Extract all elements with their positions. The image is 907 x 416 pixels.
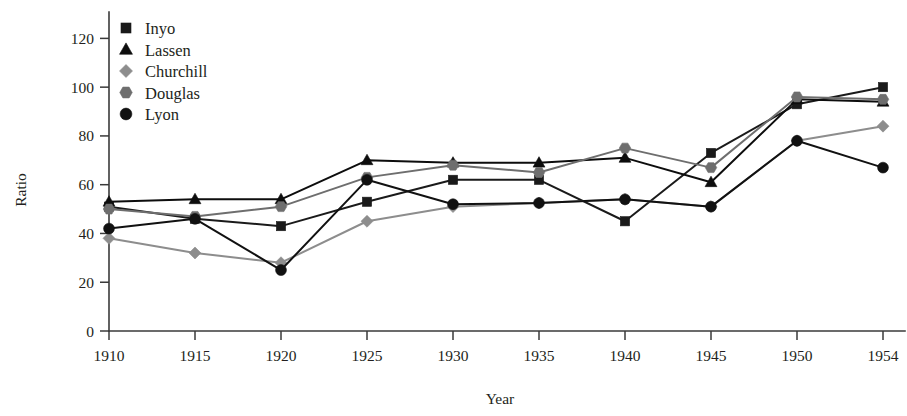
data-point [877, 94, 889, 104]
y-tick-label: 120 [71, 30, 95, 47]
data-point [103, 204, 115, 214]
legend-marker [120, 65, 133, 78]
x-tick-label: 1945 [696, 347, 727, 364]
series-lassen [103, 93, 889, 206]
x-axis-tick-labels: 1910191519201925193019351940194519501954 [94, 347, 899, 364]
y-axis-title: Ratio [12, 173, 29, 207]
legend-item-lyon: Lyon [120, 105, 179, 124]
data-point [189, 247, 201, 259]
y-tick-label: 100 [71, 79, 95, 96]
legend-label: Inyo [145, 19, 175, 38]
data-point [705, 163, 717, 173]
y-tick-label: 20 [79, 274, 95, 291]
legend-item-lassen: Lassen [120, 41, 191, 60]
data-point [276, 222, 285, 231]
legend-label: Douglas [145, 84, 200, 103]
data-point [706, 201, 717, 212]
y-axis-tick-labels: 020406080100120 [71, 30, 95, 340]
x-tick-label: 1925 [352, 347, 383, 364]
y-tick-label: 60 [79, 176, 95, 193]
x-tick-label: 1910 [94, 347, 125, 364]
legend-label: Lassen [145, 41, 191, 60]
data-point [534, 198, 545, 209]
x-tick-label: 1940 [610, 347, 641, 364]
data-point [448, 175, 457, 184]
x-tick-label: 1950 [782, 347, 813, 364]
data-point [275, 202, 287, 212]
y-tick-label: 0 [86, 323, 94, 340]
chart-legend: InyoLassenChurchillDouglasLyon [120, 19, 208, 124]
legend-item-douglas: Douglas [120, 84, 200, 103]
x-tick-label: 1930 [438, 347, 469, 364]
legend-marker [121, 23, 131, 33]
data-point [791, 92, 803, 102]
x-tick-label: 1920 [266, 347, 297, 364]
chart-container: 020406080100120 191019151920192519301935… [0, 0, 907, 416]
y-tick-label: 40 [79, 225, 95, 242]
series-douglas [103, 92, 889, 221]
y-axis-ticks [100, 38, 109, 331]
data-point [104, 223, 115, 234]
data-point [533, 168, 545, 178]
data-point [620, 217, 629, 226]
series-churchill [103, 120, 889, 269]
x-tick-label: 1935 [524, 347, 555, 364]
data-point [361, 215, 373, 227]
data-point [448, 199, 459, 210]
x-axis-ticks [109, 331, 883, 340]
data-point [878, 83, 887, 92]
data-point [190, 213, 201, 224]
y-tick-label: 80 [79, 127, 95, 144]
legend-label: Lyon [145, 105, 179, 124]
data-point [619, 143, 631, 153]
data-series-layer [103, 83, 889, 276]
ratio-line-chart: 020406080100120 191019151920192519301935… [0, 0, 907, 416]
x-tick-label: 1954 [868, 347, 899, 364]
legend-item-inyo: Inyo [121, 19, 175, 38]
series-inyo [104, 83, 887, 231]
chart-axes [109, 12, 905, 331]
data-point [878, 162, 889, 173]
legend-item-churchill: Churchill [120, 62, 208, 81]
data-point [792, 135, 803, 146]
legend-marker [120, 108, 132, 120]
x-tick-label: 1915 [180, 347, 211, 364]
legend-marker [120, 43, 133, 54]
legend-marker [120, 87, 133, 98]
data-point [276, 265, 287, 276]
x-axis-title: Year [486, 390, 515, 407]
data-point [447, 160, 459, 170]
data-point [620, 194, 631, 205]
data-point [362, 174, 373, 185]
data-point [706, 148, 715, 157]
data-point [877, 120, 889, 132]
data-point [362, 197, 371, 206]
legend-label: Churchill [145, 62, 208, 81]
